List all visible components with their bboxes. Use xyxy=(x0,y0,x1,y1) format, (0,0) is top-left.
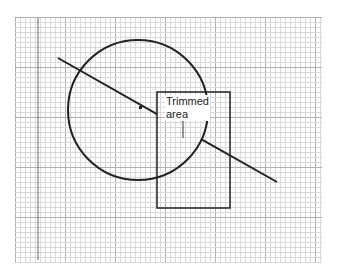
point-marker xyxy=(139,106,142,109)
grid-background xyxy=(15,17,322,263)
trimmed-area-label: Trimmed area xyxy=(165,95,210,121)
label-line-2: area xyxy=(166,108,209,121)
diagram-canvas xyxy=(0,0,337,273)
label-line-1: Trimmed xyxy=(166,95,209,108)
